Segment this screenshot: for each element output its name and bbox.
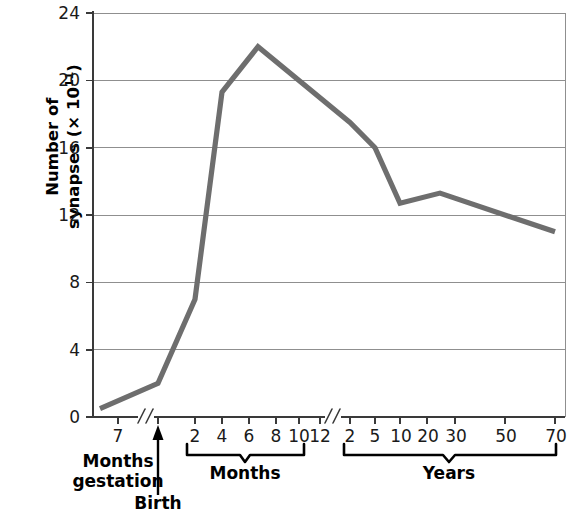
years-group-label: Years <box>423 464 475 483</box>
chart-figure: Number of synapses (× 1011) 24 20 16 12 … <box>0 0 577 529</box>
ytick-label-16: 16 <box>52 140 80 157</box>
xtick-label-5yr: 5 <box>370 428 381 445</box>
xtick-label-10yr: 10 <box>390 428 412 445</box>
synapse-count-line <box>100 47 555 409</box>
ytick-label-12: 12 <box>52 207 80 224</box>
birth-annotation-label: Birth <box>134 494 181 513</box>
xtick-label-50yr: 50 <box>495 428 517 445</box>
axis-break-2-slash-b <box>333 409 340 423</box>
gestation-group-label: Months gestation <box>72 452 163 491</box>
xtick-label-30yr: 30 <box>445 428 467 445</box>
chart-canvas <box>0 0 577 529</box>
axis-break-marks <box>138 409 340 423</box>
xtick-label-7mo-gestation: 7 <box>113 428 124 445</box>
xtick-label-20yr: 20 <box>417 428 439 445</box>
gestation-group-label-line2: gestation <box>72 471 163 491</box>
y-axis-ticks <box>86 13 93 417</box>
ytick-label-8: 8 <box>52 274 80 291</box>
ytick-label-0: 0 <box>52 409 80 426</box>
axis-break-1-slash-b <box>146 409 153 423</box>
ytick-label-20: 20 <box>52 72 80 89</box>
xtick-label-8mo: 8 <box>271 428 282 445</box>
gridlines <box>93 13 565 350</box>
x-axis-ticks <box>118 417 555 424</box>
xtick-label-4mo: 4 <box>217 428 228 445</box>
ytick-label-4: 4 <box>52 342 80 359</box>
xtick-label-6mo: 6 <box>244 428 255 445</box>
xtick-label-70yr: 70 <box>545 428 567 445</box>
xtick-label-2mo: 2 <box>190 428 201 445</box>
ytick-label-24: 24 <box>52 5 80 22</box>
months-group-label: Months <box>209 464 280 483</box>
xtick-label-12mo: 12 <box>309 428 331 445</box>
axis-break-1-slash-a <box>138 409 145 423</box>
axis-break-2-slash-a <box>325 409 332 423</box>
xtick-label-2yr: 2 <box>345 428 356 445</box>
months-bracket <box>187 444 304 462</box>
xtick-label-10mo: 10 <box>288 428 310 445</box>
years-bracket <box>344 444 556 462</box>
gestation-group-label-line1: Months <box>82 451 153 471</box>
